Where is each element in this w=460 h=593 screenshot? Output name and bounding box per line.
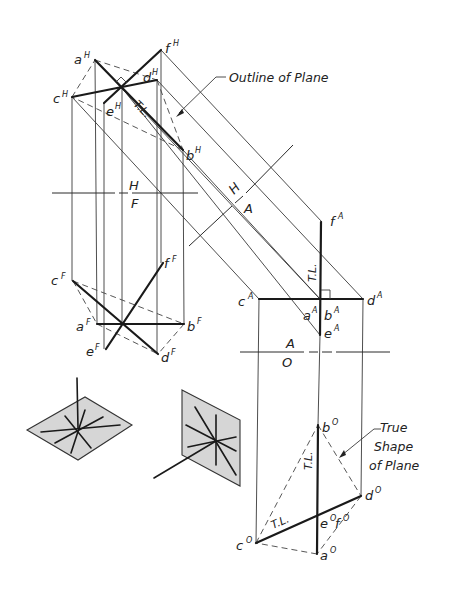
- svg-text:c: c: [236, 538, 243, 553]
- svg-text:c: c: [53, 91, 60, 106]
- svg-text:f: f: [330, 214, 337, 229]
- svg-text:H: H: [62, 90, 68, 99]
- svg-text:e: e: [106, 104, 114, 119]
- svg-text:A: A: [333, 324, 339, 333]
- svg-text:A: A: [243, 201, 253, 216]
- svg-text:F: F: [197, 317, 202, 326]
- svg-text:H: H: [152, 68, 158, 77]
- projectors-a-to-o: [256, 299, 363, 543]
- svg-text:O: O: [246, 536, 252, 545]
- front-view: [73, 263, 184, 354]
- svg-text:F: F: [86, 318, 91, 327]
- svg-text:a: a: [76, 319, 84, 334]
- svg-text:Shape: Shape: [374, 439, 413, 454]
- svg-text:O: O: [332, 418, 338, 427]
- svg-text:H: H: [195, 146, 201, 155]
- svg-text:f: f: [165, 41, 172, 56]
- svg-text:e: e: [320, 516, 328, 531]
- svg-text:e: e: [86, 344, 94, 359]
- svg-text:F: F: [95, 343, 100, 352]
- annotation-true-shape: True Shape of Plane: [369, 420, 420, 473]
- svg-text:H: H: [226, 179, 244, 197]
- svg-text:a: a: [74, 52, 82, 67]
- svg-text:H: H: [173, 39, 179, 48]
- svg-text:d: d: [367, 293, 376, 308]
- labels-front-view: a F b F c F d F e F f F: [51, 255, 202, 365]
- svg-text:f: f: [335, 516, 342, 531]
- svg-text:d: d: [161, 350, 170, 365]
- svg-text:True: True: [380, 420, 408, 435]
- svg-text:F: F: [171, 348, 176, 357]
- svg-text:b: b: [324, 308, 332, 323]
- svg-text:d: d: [143, 70, 152, 85]
- svg-text:b: b: [187, 319, 195, 334]
- svg-text:c: c: [238, 294, 245, 309]
- top-view: [72, 50, 183, 150]
- svg-text:A: A: [333, 306, 339, 315]
- svg-text:a: a: [320, 548, 328, 563]
- pictorial-horizontal-plane: [27, 378, 132, 460]
- svg-text:A: A: [376, 291, 382, 300]
- svg-text:A: A: [285, 336, 295, 351]
- svg-text:b: b: [322, 420, 330, 435]
- svg-text:b: b: [186, 148, 194, 163]
- svg-text:T.L.: T.L.: [302, 451, 315, 470]
- svg-text:O: O: [330, 546, 336, 555]
- svg-text:H: H: [84, 51, 90, 60]
- svg-text:O: O: [375, 486, 381, 495]
- fold-line-h-a: [189, 145, 293, 246]
- svg-text:H: H: [115, 102, 121, 111]
- true-shape-view: [256, 425, 361, 554]
- svg-text:F: F: [172, 255, 177, 264]
- svg-text:O: O: [282, 355, 292, 370]
- svg-text:F: F: [61, 272, 66, 281]
- svg-text:F: F: [131, 196, 139, 211]
- svg-text:T.L.: T.L.: [306, 263, 319, 282]
- pictorial-vertical-plane: [154, 390, 240, 486]
- svg-text:H: H: [129, 178, 139, 193]
- svg-text:A: A: [247, 292, 253, 301]
- drawing-canvas: a H b H c H d H e H f H T.L. a F b F c F…: [0, 0, 460, 593]
- svg-text:d: d: [365, 488, 374, 503]
- svg-text:Outline of Plane: Outline of Plane: [229, 70, 329, 85]
- svg-text:a: a: [303, 308, 311, 323]
- svg-text:A: A: [311, 306, 317, 315]
- svg-text:of Plane: of Plane: [369, 458, 420, 473]
- annotation-outline-of-plane: Outline of Plane: [229, 70, 329, 85]
- svg-text:e: e: [324, 326, 332, 341]
- labels-auxiliary-view: a A b A c A d A e A f A T.L.: [238, 212, 382, 341]
- svg-text:f: f: [164, 256, 171, 271]
- svg-text:A: A: [337, 212, 343, 221]
- fold-labels: H F H A A O: [129, 178, 295, 370]
- svg-text:O: O: [343, 514, 349, 523]
- svg-text:c: c: [51, 273, 58, 288]
